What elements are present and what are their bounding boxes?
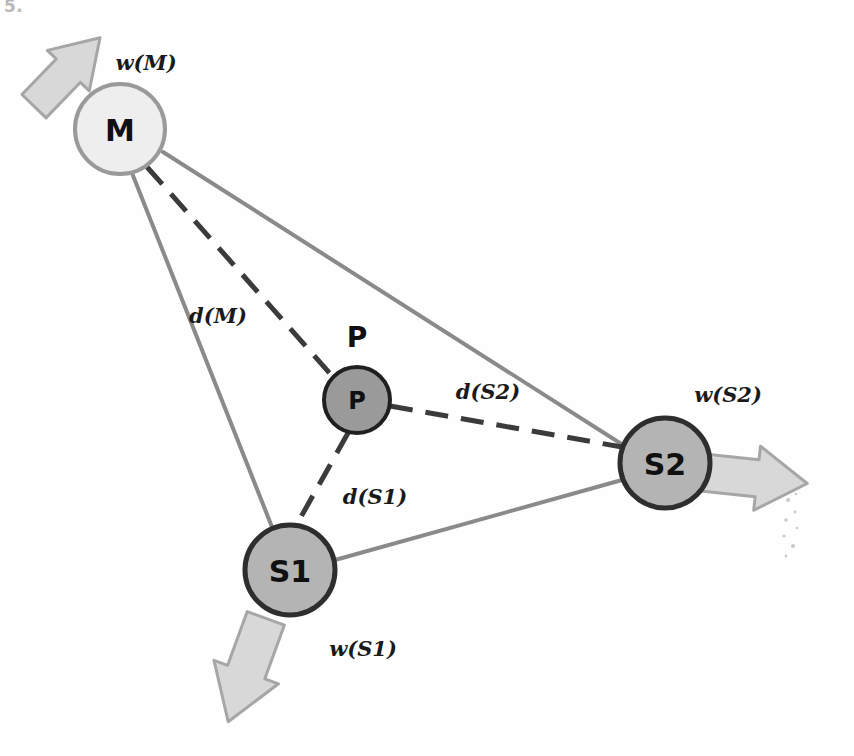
speckle-dot-7 bbox=[795, 493, 797, 495]
nodes-layer: MPS1S2P bbox=[75, 84, 710, 615]
speckle-dot-2 bbox=[784, 518, 788, 522]
edge-label-d-S1: d(S1) bbox=[343, 484, 407, 509]
speckle-dot-5 bbox=[791, 544, 795, 548]
node-external-label-P: P bbox=[347, 321, 368, 354]
weight-label-w-S1: w(S1) bbox=[329, 636, 397, 661]
node-P[interactable]: P bbox=[324, 367, 390, 433]
speckle-artifact bbox=[782, 493, 798, 558]
dashed-edge-d-M bbox=[147, 167, 334, 378]
dashed-edge-d-S2 bbox=[390, 406, 622, 447]
weight-labels-layer: w(M)w(S2)w(S1) bbox=[115, 50, 761, 661]
arrow-S2-icon bbox=[699, 440, 810, 515]
node-label-M: M bbox=[105, 113, 135, 148]
edge-label-d-M: d(M) bbox=[189, 303, 247, 328]
dashed-edge-d-S1 bbox=[297, 433, 348, 524]
dashed-edges-layer bbox=[147, 167, 622, 524]
speckle-dot-6 bbox=[785, 555, 788, 558]
weight-label-w-M: w(M) bbox=[115, 50, 176, 75]
speckle-dot-0 bbox=[786, 498, 790, 502]
node-S2[interactable]: S2 bbox=[620, 418, 710, 508]
node-label-S2: S2 bbox=[644, 447, 686, 482]
node-S1[interactable]: S1 bbox=[245, 525, 335, 615]
node-label-S1: S1 bbox=[269, 554, 311, 589]
edge-label-d-S2: d(S2) bbox=[456, 379, 520, 404]
speckle-dot-4 bbox=[782, 534, 785, 537]
node-label-P: P bbox=[348, 387, 366, 415]
node-M[interactable]: M bbox=[75, 84, 165, 174]
speckle-dot-3 bbox=[796, 527, 799, 530]
arrow-S1-icon bbox=[196, 607, 298, 734]
weight-label-w-S2: w(S2) bbox=[694, 382, 762, 407]
diagram-canvas: 5. MPS1S2P d(M)d(S2)d(S1) w(M)w(S2)w(S1) bbox=[0, 0, 854, 756]
node-diagram-svg: MPS1S2P d(M)d(S2)d(S1) w(M)w(S2)w(S1) bbox=[0, 0, 854, 756]
solid-edge-M-S2 bbox=[163, 152, 623, 445]
speckle-dot-1 bbox=[794, 511, 797, 514]
